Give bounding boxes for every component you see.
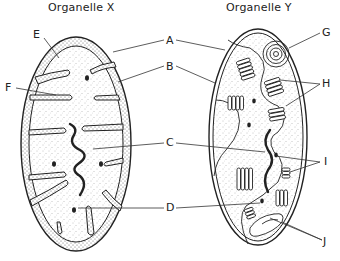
label-i: I — [324, 156, 327, 167]
label-g: G — [322, 27, 331, 38]
label-a: A — [166, 35, 174, 46]
y-inner-membrane — [213, 33, 303, 241]
label-d: D — [166, 202, 174, 213]
label-h: H — [322, 78, 330, 89]
label-e: E — [33, 29, 40, 40]
label-b: B — [166, 61, 174, 72]
organelle-y — [209, 29, 307, 245]
label-f: F — [5, 82, 11, 93]
label-c: C — [166, 137, 174, 148]
label-j: J — [323, 236, 326, 247]
organelle-x — [21, 37, 131, 251]
